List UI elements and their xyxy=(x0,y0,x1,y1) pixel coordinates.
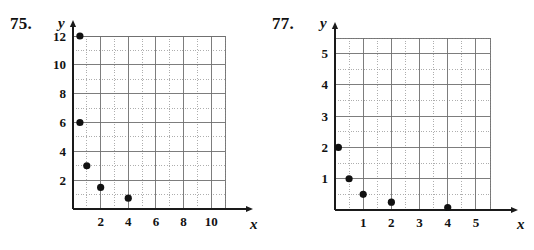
scatter-plot-77: 1234512345 x y xyxy=(267,0,534,250)
data-points-77 xyxy=(335,144,452,211)
data-point xyxy=(76,119,83,126)
x-axis-label-77: x xyxy=(516,216,525,232)
x-axis-label-75: x xyxy=(249,216,258,232)
x-tick-label: 8 xyxy=(180,214,187,229)
x-tick-label: 3 xyxy=(416,215,423,230)
data-point xyxy=(335,144,342,151)
y-tick-label: 10 xyxy=(53,57,66,72)
y-tick-label: 2 xyxy=(322,140,329,155)
x-tick-label: 4 xyxy=(444,215,451,230)
data-point xyxy=(125,195,132,202)
axes-75 xyxy=(70,20,253,212)
y-tick-label: 4 xyxy=(60,144,67,159)
data-point xyxy=(345,175,352,182)
data-point xyxy=(83,162,90,169)
x-tick-label: 6 xyxy=(153,214,160,229)
x-tick-label: 2 xyxy=(97,214,104,229)
y-axis-label-77: y xyxy=(318,15,327,31)
data-point xyxy=(97,184,104,191)
data-points-75 xyxy=(76,32,132,201)
y-tick-label: 1 xyxy=(322,171,329,186)
data-point xyxy=(360,191,367,198)
x-tick-label: 5 xyxy=(473,215,480,230)
y-tick-label: 3 xyxy=(322,109,329,124)
y-tick-label: 4 xyxy=(322,77,329,92)
scatter-plot-75: 24681024681012 x y xyxy=(0,0,267,250)
data-point xyxy=(76,32,83,39)
x-tick-label: 2 xyxy=(388,215,395,230)
y-tick-label: 8 xyxy=(60,86,67,101)
x-tick-label: 4 xyxy=(125,214,132,229)
tick-labels-77: 1234512345 xyxy=(322,46,480,230)
y-tick-label: 2 xyxy=(60,173,67,188)
tick-labels-75: 24681024681012 xyxy=(53,29,218,230)
y-tick-label: 5 xyxy=(322,46,329,61)
grid-77 xyxy=(335,38,490,210)
problem-77: 77. 1234512345 x y xyxy=(267,0,534,250)
y-axis-label-75: y xyxy=(56,15,65,31)
problem-75: 75. 24681024681012 x y xyxy=(0,0,267,250)
x-tick-label: 1 xyxy=(360,215,367,230)
data-point xyxy=(444,204,451,211)
data-point xyxy=(388,199,395,206)
worksheet-page: 75. 24681024681012 x y 77. 1234512345 x … xyxy=(0,0,534,250)
y-tick-label: 6 xyxy=(60,115,67,130)
grid-75 xyxy=(73,36,225,209)
x-tick-label: 10 xyxy=(205,214,218,229)
